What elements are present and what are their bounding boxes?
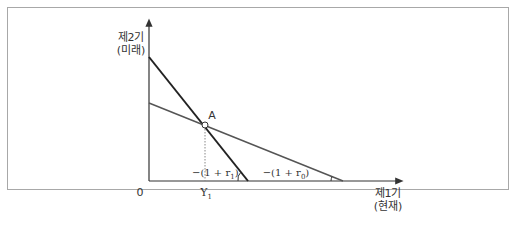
flat-budget-line [149, 103, 343, 181]
flat-angle-arc [331, 177, 332, 182]
steep-slope-label: −(1 + r1) [192, 166, 238, 184]
budget-line-diagram [0, 0, 514, 226]
steep-budget-line [149, 57, 248, 181]
origin-label: 0 [134, 186, 146, 199]
y1-label: Y1 [196, 186, 216, 204]
flat-slope-label: −(1 + r0) [262, 166, 310, 184]
point-a-marker [202, 122, 208, 128]
y-axis-label: 제2기 (미래) [114, 31, 148, 57]
x-axis-label: 제1기 (현재) [363, 187, 413, 213]
point-a-label: A [206, 109, 218, 122]
